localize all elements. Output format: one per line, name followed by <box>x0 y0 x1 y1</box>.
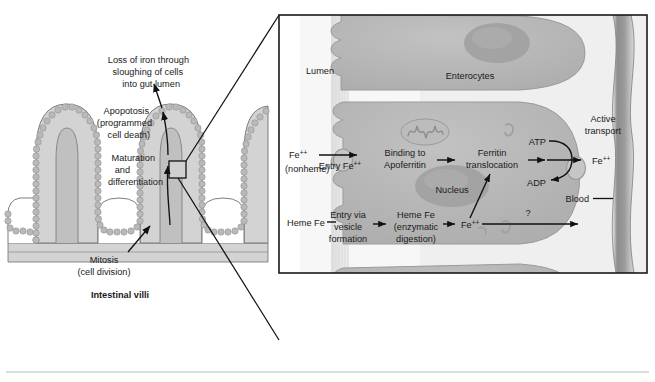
apoptosis-line-2: (programmed <box>97 118 152 128</box>
binding-line-2: Apoferritin <box>384 160 426 170</box>
nucleus-label: Nucleus <box>435 185 469 195</box>
mitochondrion-main <box>401 119 449 145</box>
nucleus-top-highlight <box>472 27 512 49</box>
ferritin-line-2: translocation <box>466 160 518 170</box>
mitosis-line-2: (cell division) <box>77 267 130 277</box>
maturation-line-2: and <box>115 165 130 175</box>
vesicle-line-2: vesicle <box>334 222 362 232</box>
digestion-line-1: Heme Fe <box>397 210 435 220</box>
maturation-line-1: Maturation <box>112 153 155 163</box>
active-transport-line-2: transport <box>585 126 622 136</box>
vesicle-line-3: formation <box>329 234 367 244</box>
unknown-marker: ? <box>525 208 530 218</box>
mitosis-line-1: Mitosis <box>90 255 119 265</box>
figure-root: Loss of iron through sloughing of cells … <box>0 0 655 382</box>
binding-line-1: Binding to <box>385 148 426 158</box>
digestion-line-2: (enzymatic <box>394 222 439 232</box>
maturation-line-3: differentiation <box>108 177 163 187</box>
villus-left <box>36 104 98 243</box>
enterocytes-label: Enterocytes <box>446 71 495 81</box>
heme-source-label: Heme Fe <box>287 218 325 228</box>
apoptosis-line-1: Apopotosis <box>104 106 150 116</box>
villus-far-right <box>244 106 268 243</box>
vesicle-line-1: Entry via <box>330 210 367 220</box>
villus-far-right-body <box>244 106 268 243</box>
active-transport-line-1: Active <box>590 114 615 124</box>
atp-label: ATP <box>529 137 546 147</box>
enterocyte-main <box>331 102 586 244</box>
lumen-label: Lumen <box>306 66 334 76</box>
crypt-2 <box>202 198 244 243</box>
intestinal-villi-caption: Intestinal villi <box>91 290 149 300</box>
crypt-0 <box>8 198 36 243</box>
adp-label: ADP <box>527 178 546 188</box>
diagram-svg: Loss of iron through sloughing of cells … <box>0 0 655 382</box>
villus-left-core <box>56 128 78 243</box>
loss-line-1: Loss of iron through <box>108 55 189 65</box>
loss-line-3: into gut lumen <box>122 79 180 89</box>
loss-line-2: sloughing of cells <box>113 67 184 77</box>
digestion-line-3: digestion) <box>396 234 436 244</box>
ferritin-line-1: Ferritin <box>478 148 507 158</box>
villus-right-core <box>160 128 182 243</box>
apoptosis-line-3: cell death) <box>108 130 150 140</box>
crypt-1 <box>98 198 140 243</box>
blood-label: Blood <box>566 194 590 204</box>
zoom-callout-box[interactable] <box>169 161 186 178</box>
